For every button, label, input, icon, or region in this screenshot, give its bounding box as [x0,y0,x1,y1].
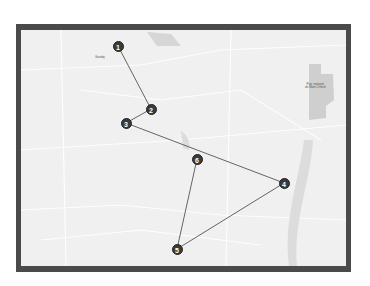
place-label-granby: Granby [95,56,105,59]
route-marker-2[interactable]: 2 [146,104,157,115]
route-marker-6[interactable]: 6 [192,154,203,165]
route-line [118,46,284,249]
route-marker-4[interactable]: 4 [279,178,290,189]
lake-shape [147,32,181,46]
lake-shape [288,140,313,266]
route-marker-1[interactable]: 1 [113,41,124,52]
place-label-parc-mont-orford: Parc national de Mont-Orford [305,83,325,90]
park-mont-orford [309,64,334,120]
route-marker-3[interactable]: 3 [121,118,132,129]
route-marker-5[interactable]: 5 [172,244,183,255]
map-background [21,30,346,266]
map-canvas[interactable]: Granby Parc national de Mont-Orford 1 2 … [21,30,346,266]
map-frame: Granby Parc national de Mont-Orford 1 2 … [16,24,351,272]
